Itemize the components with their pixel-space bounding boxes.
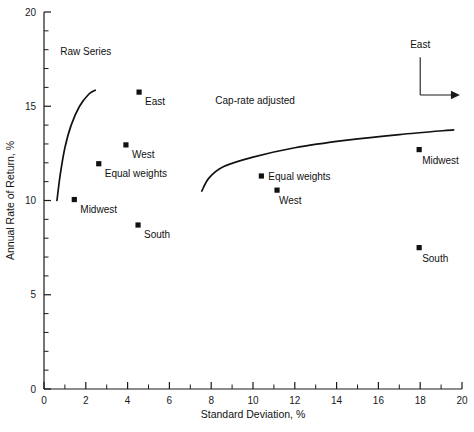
y-axis-tick-label: 10 (25, 195, 37, 206)
data-point-marker (417, 245, 422, 250)
group-label: Raw Series (60, 46, 111, 57)
x-axis-tick-label: 14 (331, 395, 343, 406)
x-axis-tick-label: 8 (208, 395, 214, 406)
x-axis-tick-label: 20 (456, 395, 468, 406)
x-axis-tick-label: 2 (83, 395, 89, 406)
data-point-label: Midwest (80, 204, 117, 215)
x-axis-tick-label: 18 (415, 395, 427, 406)
footer-smudge-text (110, 418, 410, 430)
y-axis-title: Annual Rate of Return, % (4, 141, 16, 260)
y-axis-tick-label: 15 (25, 101, 37, 112)
x-axis-tick-label: 16 (373, 395, 385, 406)
scatter-chart: 0510152002468101214161820Standard Deviat… (0, 0, 474, 432)
data-point-marker (417, 147, 422, 152)
chart-root: 0510152002468101214161820Standard Deviat… (0, 0, 474, 432)
data-point-marker (135, 222, 140, 227)
data-point-marker (136, 90, 141, 95)
data-point-marker (259, 173, 264, 178)
y-axis-tick-label: 0 (30, 384, 36, 395)
y-axis-tick-label: 5 (30, 289, 36, 300)
raw-series-frontier (57, 90, 95, 200)
data-point-label: West (279, 195, 302, 206)
data-point-marker (123, 142, 128, 147)
data-point-label: Midwest (422, 155, 459, 166)
group-label: Cap-rate adjusted (215, 95, 295, 106)
data-point-label: West (132, 149, 155, 160)
data-point-label: South (422, 253, 448, 264)
data-point-marker (274, 188, 279, 193)
x-axis-tick-label: 4 (125, 395, 131, 406)
x-axis-tick-label: 0 (41, 395, 47, 406)
x-axis-tick-label: 10 (247, 395, 259, 406)
x-axis-tick-label: 6 (167, 395, 173, 406)
x-axis-tick-label: 12 (289, 395, 301, 406)
data-point-label: South (144, 229, 170, 240)
data-point-label: Equal weights (268, 171, 330, 182)
annotation-arrow-head-icon (451, 91, 460, 99)
data-point-marker (96, 161, 101, 166)
data-point-label: East (145, 96, 165, 107)
annotation-label: East (410, 39, 430, 50)
y-axis-tick-label: 20 (25, 7, 37, 18)
data-point-marker (72, 197, 77, 202)
data-point-label: Equal weights (105, 168, 167, 179)
